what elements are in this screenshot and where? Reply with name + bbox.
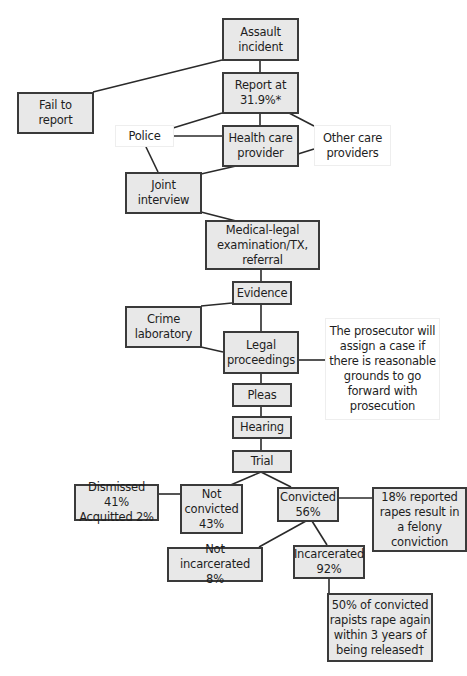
node-convicted: Convicted 56% xyxy=(277,487,339,522)
node-notincarc: Not incarcerated 8% xyxy=(167,547,263,582)
node-evidence: Evidence xyxy=(232,281,292,305)
node-other: Other care providers xyxy=(314,125,391,166)
node-hearing: Hearing xyxy=(232,416,292,439)
edge-other-health xyxy=(298,149,314,154)
node-medical: Medical-legal examination/TX, referral xyxy=(205,220,320,270)
edge-police-joint xyxy=(146,147,158,172)
edge-evidence-crimelab xyxy=(201,303,232,306)
node-health: Health care provider xyxy=(222,125,299,167)
node-notconvicted: Not convicted 43% xyxy=(180,484,243,534)
node-trial: Trial xyxy=(232,450,292,473)
node-recid: 50% of convicted rapists rape again with… xyxy=(327,593,433,662)
node-fail: Fail to report xyxy=(17,92,94,134)
edge-assault-fail xyxy=(93,60,222,92)
edge-convicted-incarc xyxy=(312,521,327,545)
node-legal: Legal proceedings xyxy=(223,331,299,374)
edge-trial-convicted xyxy=(261,472,291,487)
node-crimelab: Crime laboratory xyxy=(125,306,202,348)
node-dismissed: Dismissed 41% Acquitted 2% xyxy=(74,484,159,521)
edge-report-police xyxy=(173,113,222,128)
edge-health-joint xyxy=(201,166,236,174)
node-incarc: Incarcerated 92% xyxy=(293,545,365,579)
node-report: Report at 31.9%* xyxy=(222,72,299,114)
edge-convicted-notincarc xyxy=(259,521,306,547)
node-police: Police xyxy=(115,125,174,147)
node-assault: Assault incident xyxy=(222,18,299,61)
edge-crimelab-legal xyxy=(201,347,223,352)
node-felony: 18% reported rapes result in a felony co… xyxy=(372,487,467,552)
node-prosecutor: The prosecutor will assign a case if the… xyxy=(325,318,440,420)
node-pleas: Pleas xyxy=(232,383,292,407)
node-joint: Joint interview xyxy=(125,172,202,214)
